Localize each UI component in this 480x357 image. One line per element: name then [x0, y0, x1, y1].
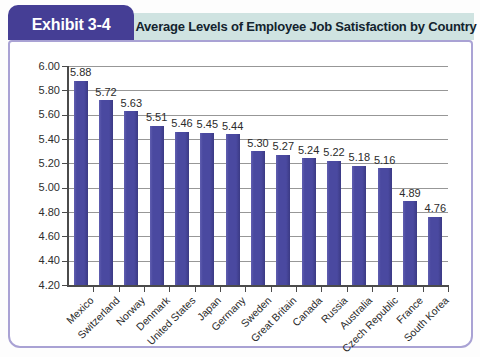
- y-tick-label: 6.00: [14, 60, 60, 72]
- x-axis-tick: [448, 287, 449, 292]
- x-axis-tick: [321, 287, 322, 292]
- bar: [302, 158, 316, 285]
- x-axis-tick: [144, 287, 145, 292]
- x-axis-tick: [195, 287, 196, 292]
- bar: [124, 111, 138, 285]
- y-tick-label: 4.40: [14, 254, 60, 266]
- bar: [226, 134, 240, 285]
- x-axis-tick: [93, 287, 94, 292]
- y-tick-label: 5.80: [14, 84, 60, 96]
- bar-value-label: 4.76: [420, 202, 450, 214]
- exhibit-figure: Average Levels of Employee Job Satisfact…: [0, 0, 480, 357]
- bar: [378, 168, 392, 285]
- y-axis-line: [67, 66, 69, 287]
- bar: [276, 155, 290, 285]
- gridline: [68, 90, 448, 91]
- y-tick-label: 5.20: [14, 157, 60, 169]
- exhibit-label: Exhibit 3-4: [32, 12, 111, 34]
- bar-chart: 6.005.805.605.405.205.004.804.604.404.20…: [68, 66, 448, 285]
- bar: [200, 133, 214, 285]
- y-tick-label: 5.00: [14, 181, 60, 193]
- x-axis-tick: [220, 287, 221, 292]
- chart-panel: 6.005.805.605.405.205.004.804.604.404.20…: [8, 40, 473, 348]
- x-axis-tick: [347, 287, 348, 292]
- bar-value-label: 5.16: [370, 154, 400, 166]
- bar: [99, 100, 113, 285]
- figure-title-bar: Average Levels of Employee Job Satisfact…: [112, 13, 474, 40]
- bar-value-label: 5.44: [218, 120, 248, 132]
- bar: [327, 161, 341, 285]
- figure-title: Average Levels of Employee Job Satisfact…: [109, 19, 476, 34]
- x-axis-tick: [169, 287, 170, 292]
- bar: [74, 81, 88, 285]
- x-axis-tick: [423, 287, 424, 292]
- y-tick-label: 5.40: [14, 133, 60, 145]
- bar-value-label: 5.63: [116, 97, 146, 109]
- bar: [403, 201, 417, 285]
- y-tick-label: 4.60: [14, 230, 60, 242]
- x-axis-tick: [397, 287, 398, 292]
- x-axis-tick: [271, 287, 272, 292]
- bar: [150, 126, 164, 285]
- bar: [175, 132, 189, 285]
- gridline: [68, 66, 448, 67]
- x-axis-tick: [372, 287, 373, 292]
- bar: [251, 151, 265, 285]
- y-tick-label: 4.20: [14, 279, 60, 291]
- bar: [428, 217, 442, 285]
- y-tick-label: 5.60: [14, 108, 60, 120]
- bar-value-label: 5.88: [66, 66, 96, 78]
- bar-value-label: 4.89: [395, 187, 425, 199]
- exhibit-label-tab: Exhibit 3-4: [8, 5, 134, 40]
- y-tick-label: 4.80: [14, 206, 60, 218]
- x-axis-tick: [119, 287, 120, 292]
- bar: [352, 166, 366, 285]
- x-axis-line: [67, 285, 449, 287]
- x-axis-tick: [245, 287, 246, 292]
- x-axis-tick: [296, 287, 297, 292]
